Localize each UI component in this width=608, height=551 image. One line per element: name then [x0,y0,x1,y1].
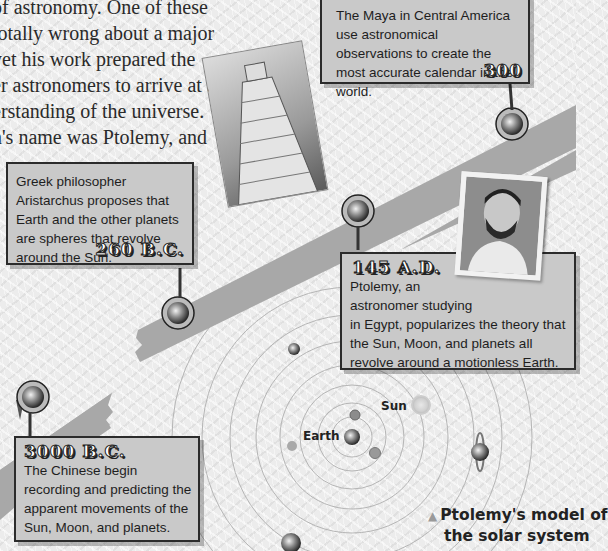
event-description-line: revolve around a motionless Earth. [350,353,568,372]
diagram-caption: ▲Ptolemy's model of the solar system [428,505,608,546]
event-description-line: in Egypt, popularizes the theory that [350,315,568,334]
event-description: The Maya in Central America use astronom… [336,6,516,101]
triangle-icon: ▲ [428,509,437,523]
ptolemy-portrait-overlay [454,171,547,281]
event-card-260bc: Greek philosopher Aristarchus proposes t… [6,162,194,265]
event-card-300: The Maya in Central America use astronom… [320,0,530,84]
event-description-line: the Sun, Moon, and planets all [350,334,568,353]
sun-body [412,396,430,414]
caption-line: the solar system [428,526,608,546]
caption-line: Ptolemy's model of [440,506,607,524]
event-card-3000bc: 3000 B.C. The Chinese begin recording an… [14,436,200,542]
person-portrait-icon [460,176,542,275]
event-date: 3000 B.C. [24,442,192,461]
earth-label: Earth [303,429,340,443]
event-description-line: astronomer studying [350,296,568,315]
event-description: The Chinese begin recording and predicti… [24,461,192,537]
event-date: 260 B.C. [95,240,184,259]
earth-globe [344,429,360,445]
event-date: 300 [484,61,523,80]
sun-label: Sun [381,399,407,413]
